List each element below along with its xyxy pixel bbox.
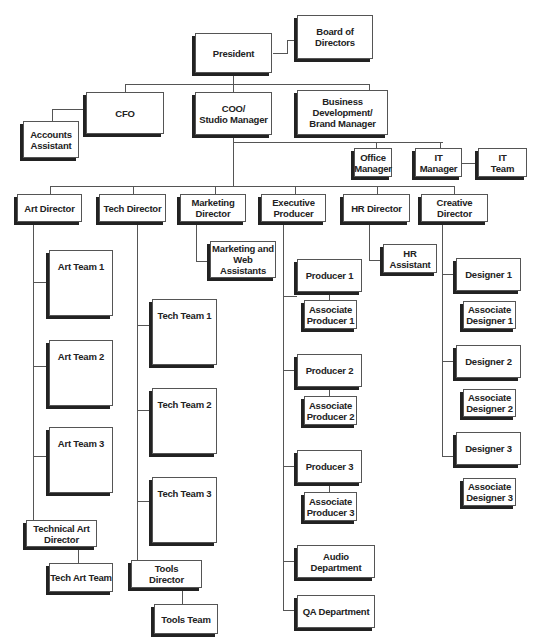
director-tech: Tech Director <box>99 194 166 222</box>
tech-team-box: Tech Team 3 <box>152 477 217 543</box>
connector <box>133 186 134 194</box>
tools-team-box: Tools Team <box>154 604 218 634</box>
it-team-label: IT Team <box>491 152 514 174</box>
connector <box>137 410 151 411</box>
associate-designer-label: Associate Designer 2 <box>466 392 513 414</box>
connector <box>442 361 456 362</box>
director-label: Marketing Director <box>191 197 234 219</box>
associate-producer-box: Associate Producer 1 <box>304 300 357 329</box>
connector <box>52 109 53 121</box>
connector <box>137 501 151 502</box>
president-label: President <box>213 48 255 59</box>
director-creative: Creative Director <box>421 194 488 222</box>
office-manager-box: Office Manager <box>354 148 392 177</box>
director-label: Tech Director <box>104 203 162 214</box>
art-team-box: Art Team 1 <box>49 250 113 316</box>
director-label: Art Director <box>24 203 74 214</box>
connector <box>369 222 370 260</box>
it-team-box: IT Team <box>478 148 527 177</box>
designer-label: Designer 2 <box>465 356 512 367</box>
director-marketing: Marketing Director <box>180 194 246 222</box>
connector <box>50 186 454 187</box>
art-team-box: Art Team 3 <box>49 427 113 493</box>
tech-team-label: Tech Team 1 <box>158 310 212 321</box>
accounts-assistant-box: Accounts Assistant <box>23 121 79 158</box>
connector <box>283 466 297 467</box>
associate-producer-box: Associate Producer 3 <box>304 492 357 521</box>
associate-designer-label: Associate Designer 3 <box>466 481 513 503</box>
associate-producer-label: Associate Producer 3 <box>307 496 355 518</box>
biz-dev-label: Business Development/ Brand Manager <box>298 96 387 129</box>
coo-box: COO/ Studio Manager <box>195 92 272 135</box>
connector <box>329 483 330 492</box>
coo-label: COO/ Studio Manager <box>199 103 267 125</box>
audio-department-label: Audio Department <box>298 551 374 573</box>
connector <box>233 142 443 143</box>
connector <box>33 456 47 457</box>
hr-assistant-label: HR Assistant <box>390 248 431 270</box>
connector <box>283 561 297 562</box>
connector <box>454 186 455 194</box>
connector <box>377 186 378 194</box>
president-box: President <box>195 33 272 73</box>
board-label: Board of Directors <box>315 26 355 48</box>
tech-team-label: Tech Team 2 <box>158 399 212 410</box>
connector <box>442 456 456 457</box>
connector <box>50 186 51 194</box>
connector <box>182 588 183 604</box>
tech-art-team-label: Tech Art Team <box>50 572 112 583</box>
connector <box>33 222 34 520</box>
associate-designer-label: Associate Designer 1 <box>466 304 513 326</box>
connector <box>125 84 126 92</box>
connector <box>52 109 86 110</box>
cfo-label: CFO <box>115 108 134 119</box>
director-label: Creative Director <box>422 197 487 219</box>
art-team-box: Art Team 2 <box>49 340 113 406</box>
connector <box>125 84 369 85</box>
producer-box: Producer 2 <box>297 354 362 387</box>
connector <box>462 163 478 164</box>
connector <box>215 186 216 194</box>
director-art: Art Director <box>17 194 82 222</box>
connector <box>287 40 297 41</box>
designer-box: Designer 1 <box>456 258 521 291</box>
qa-department-box: QA Department <box>297 595 375 628</box>
tools-director-label: Tools Director <box>149 563 184 585</box>
connector <box>33 282 47 283</box>
technical-art-director-box: Technical Art Director <box>26 520 97 547</box>
associate-producer-label: Associate Producer 1 <box>307 304 355 326</box>
designer-label: Designer 1 <box>465 269 512 280</box>
connector <box>295 186 296 194</box>
connector <box>137 325 151 326</box>
connector <box>137 222 138 560</box>
art-team-label: Art Team 3 <box>58 438 104 449</box>
tech-team-box: Tech Team 2 <box>152 388 217 454</box>
director-label: HR Director <box>351 203 402 214</box>
board-box: Board of Directors <box>297 15 373 59</box>
producer-box: Producer 3 <box>297 450 362 483</box>
art-team-label: Art Team 2 <box>58 351 104 362</box>
connector <box>78 547 79 563</box>
director-executive-producer: Executive Producer <box>261 194 326 222</box>
connector <box>283 370 297 371</box>
connector <box>283 222 284 611</box>
producer-label: Producer 3 <box>306 461 354 472</box>
connector <box>33 366 47 367</box>
associate-designer-box: Associate Designer 2 <box>463 389 516 417</box>
designer-box: Designer 2 <box>456 345 521 378</box>
marketing-assistants-label: Marketing and Web Assistants <box>211 243 275 276</box>
associate-designer-box: Associate Designer 1 <box>463 301 516 329</box>
it-manager-box: IT Manager <box>415 148 462 177</box>
tech-team-label: Tech Team 3 <box>158 488 212 499</box>
designer-label: Designer 3 <box>465 443 512 454</box>
it-manager-label: IT Manager <box>420 152 458 174</box>
art-team-label: Art Team 1 <box>58 261 104 272</box>
associate-producer-box: Associate Producer 2 <box>304 396 357 425</box>
connector <box>329 387 330 396</box>
connector <box>196 222 197 261</box>
associate-designer-box: Associate Designer 3 <box>463 478 516 506</box>
tools-director-box: Tools Director <box>131 560 202 588</box>
connector <box>233 84 234 92</box>
director-label: Executive Producer <box>272 197 315 219</box>
accounts-assistant-label: Accounts Assistant <box>30 129 72 151</box>
